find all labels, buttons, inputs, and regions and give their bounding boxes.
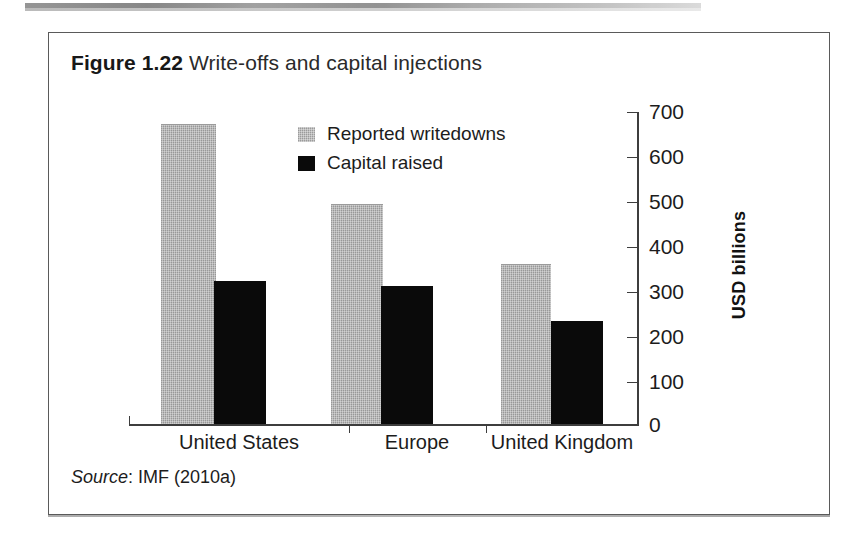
- y-tick-label-300: 300: [649, 280, 684, 304]
- bar-reported-writedowns-united-kingdom: [501, 264, 551, 424]
- y-axis-line: [637, 112, 639, 426]
- y-tick-label-100: 100: [649, 370, 684, 394]
- y-tick-100: [627, 382, 638, 383]
- x-category-label-united-states: United States: [179, 431, 299, 454]
- legend-item-reported-writedowns: Reported writedowns: [298, 121, 505, 147]
- y-tick-200: [627, 337, 638, 338]
- legend-swatch-gray-icon: [298, 127, 315, 142]
- legend-label-reported-writedowns: Reported writedowns: [327, 123, 505, 145]
- y-tick-label-400: 400: [649, 235, 684, 259]
- legend-item-capital-raised: Capital raised: [298, 150, 505, 176]
- y-tick-400: [627, 247, 638, 248]
- bar-chart-plot: 700 600 500 400 300 200 100 0 USD billio…: [49, 33, 831, 516]
- scan-artifact-bar: [25, 3, 701, 11]
- y-tick-600: [627, 157, 638, 158]
- y-tick-700: [627, 112, 638, 113]
- bar-capital-raised-united-kingdom: [551, 321, 603, 424]
- bar-reported-writedowns-europe: [331, 204, 383, 424]
- y-tick-label-600: 600: [649, 145, 684, 169]
- y-tick-label-0: 0: [649, 413, 661, 437]
- y-tick-300: [627, 292, 638, 293]
- x-category-label-united-kingdom: United Kingdom: [491, 431, 633, 454]
- legend-label-capital-raised: Capital raised: [327, 152, 443, 174]
- bar-reported-writedowns-united-states: [161, 124, 216, 424]
- bar-capital-raised-united-states: [214, 281, 266, 424]
- y-tick-label-700: 700: [649, 100, 684, 124]
- chart-legend: Reported writedowns Capital raised: [298, 121, 505, 179]
- y-axis-title: USD billions: [729, 211, 750, 319]
- y-tick-500: [627, 202, 638, 203]
- x-tick-start: [129, 416, 130, 425]
- x-tick-group-1: [349, 424, 350, 433]
- x-axis-line: [129, 424, 638, 426]
- source-label: Source: [71, 467, 128, 487]
- x-category-label-europe: Europe: [385, 431, 450, 454]
- figure-container: Figure 1.22 Write-offs and capital injec…: [48, 32, 830, 515]
- source-note: Source: IMF (2010a): [71, 467, 236, 488]
- y-tick-label-500: 500: [649, 190, 684, 214]
- x-tick-group-2: [486, 424, 487, 433]
- legend-swatch-black-icon: [298, 156, 315, 171]
- bar-capital-raised-europe: [381, 286, 433, 424]
- source-value: : IMF (2010a): [128, 467, 236, 487]
- y-tick-label-200: 200: [649, 325, 684, 349]
